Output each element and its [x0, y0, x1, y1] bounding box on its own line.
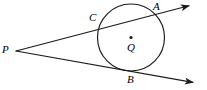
- tangent-ray-pb: [16, 51, 193, 82]
- center-point-dot: [129, 36, 132, 39]
- point-label-b: B: [127, 74, 134, 85]
- point-label-c: C: [89, 12, 96, 23]
- geometry-figure: P C A Q B: [0, 0, 207, 90]
- point-label-q: Q: [127, 42, 135, 53]
- point-label-a: A: [153, 1, 160, 12]
- geometry-diagram: [0, 0, 207, 90]
- point-label-p: P: [2, 44, 9, 55]
